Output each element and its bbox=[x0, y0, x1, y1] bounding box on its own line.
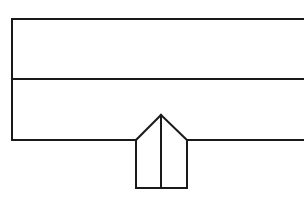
line-drawing-figure bbox=[0, 0, 304, 199]
drawing-canvas bbox=[0, 0, 304, 199]
